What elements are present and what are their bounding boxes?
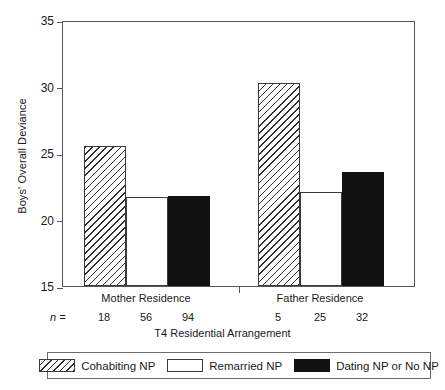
n-value: 56 [125, 311, 167, 323]
legend-label: Dating NP or No NP [336, 360, 439, 372]
bar-chart-figure: Boys' Overall Deviance 1520253035 Mother… [0, 0, 445, 390]
y-tick-label: 15 [14, 279, 54, 295]
y-tick-label: 30 [14, 80, 54, 96]
legend-entry: Cohabiting NP [39, 359, 167, 372]
y-tick-mark [57, 288, 63, 289]
bar-mother-residence-dating-np-or-no-np [168, 196, 210, 286]
y-tick-label: 25 [14, 146, 54, 162]
y-tick-mark [57, 155, 63, 156]
bar-father-residence-dating-np-or-no-np [342, 172, 384, 286]
bar-mother-residence-cohabiting-np [84, 146, 126, 286]
white-rectangle-swatch [167, 359, 203, 372]
legend-entry: Remarried NP [167, 359, 294, 372]
bar-father-residence-cohabiting-np [258, 83, 300, 286]
legend-entry: Dating NP or No NP [294, 359, 439, 372]
n-prefix-label: n = [50, 311, 66, 323]
group-separator-tick [239, 286, 240, 293]
n-value: 18 [83, 311, 125, 323]
n-value: 32 [341, 311, 383, 323]
x-axis-title: T4 Residential Arrangement [0, 327, 445, 339]
y-tick-label: 35 [14, 13, 54, 29]
n-value: 25 [299, 311, 341, 323]
y-tick-mark [57, 88, 63, 89]
n-value: 5 [257, 311, 299, 323]
legend-label: Remarried NP [209, 360, 282, 372]
black-rectangle-swatch [294, 359, 330, 372]
y-tick-label: 20 [14, 213, 54, 229]
hatched-rectangle-swatch [39, 359, 75, 372]
n-value: 94 [167, 311, 209, 323]
y-tick-mark [57, 22, 63, 23]
y-tick-mark [57, 221, 63, 222]
group-label-mother-residence: Mother Residence [71, 292, 221, 304]
group-label-father-residence: Father Residence [245, 292, 395, 304]
chart-legend: Cohabiting NPRemarried NPDating NP or No… [47, 352, 431, 379]
bar-father-residence-remarried-np [300, 192, 342, 286]
plot-area: 1520253035 [62, 21, 415, 287]
bar-mother-residence-remarried-np [126, 197, 168, 286]
legend-label: Cohabiting NP [81, 360, 155, 372]
